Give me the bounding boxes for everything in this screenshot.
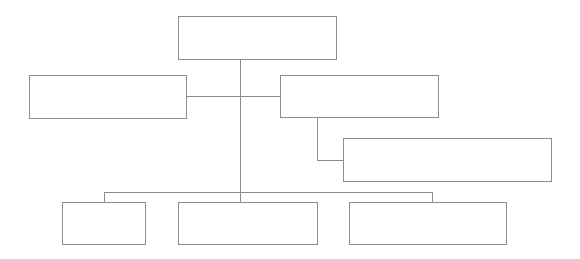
connector-bus <box>104 192 433 193</box>
node-sub-1[interactable] <box>62 202 146 245</box>
connector-sub-2 <box>240 192 241 202</box>
node-root[interactable] <box>178 16 337 60</box>
connector-sub-3 <box>432 192 433 202</box>
org-chart-diagram <box>0 0 580 259</box>
node-left-assistant[interactable] <box>29 75 187 119</box>
node-sub-3[interactable] <box>349 202 507 245</box>
connector-right-child-horizontal <box>317 160 343 161</box>
node-right-assistant[interactable] <box>280 75 439 118</box>
node-right-assistant-child[interactable] <box>343 138 552 182</box>
connector-sub-1 <box>104 192 105 202</box>
connector-root-trunk <box>240 59 241 192</box>
connector-assistants <box>186 96 280 97</box>
node-sub-2[interactable] <box>178 202 318 245</box>
connector-right-child-vertical <box>317 117 318 160</box>
